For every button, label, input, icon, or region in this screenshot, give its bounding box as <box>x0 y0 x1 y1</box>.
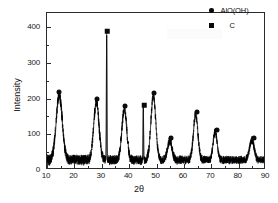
spectrum-path-noise <box>47 33 264 165</box>
x-tick-70 <box>211 164 212 168</box>
x-tick-minor <box>198 166 199 168</box>
x-tick-minor <box>61 166 62 168</box>
x-tick-label-60: 60 <box>179 171 188 180</box>
x-tick-minor <box>170 166 171 168</box>
spectrum-path <box>47 35 264 165</box>
peak-marker-AlOOH-14.5 <box>57 90 62 95</box>
peak-marker-AlOOH-85.5 <box>251 135 256 140</box>
y-tick-minor <box>47 152 49 153</box>
legend-label: C <box>230 21 235 30</box>
x-tick-label-20: 20 <box>69 171 78 180</box>
x-tick-label-30: 30 <box>97 171 106 180</box>
x-tick-10 <box>47 164 48 168</box>
legend-label: AlO(OH) <box>221 6 249 15</box>
y-tick-100 <box>47 134 51 135</box>
peak-marker-AlOOH-72 <box>214 127 219 132</box>
y-tick-label-300: 300 <box>0 57 40 66</box>
x-tick-60 <box>184 164 185 168</box>
x-tick-minor <box>252 166 253 168</box>
x-axis-title: 2θ <box>0 184 278 194</box>
x-tick-20 <box>74 164 75 168</box>
plot-area <box>46 12 265 169</box>
x-tick-label-80: 80 <box>233 171 242 180</box>
y-tick-minor <box>47 116 49 117</box>
x-tick-80 <box>239 164 240 168</box>
y-tick-label-100: 100 <box>0 129 40 138</box>
y-tick-label-200: 200 <box>0 93 40 102</box>
x-tick-minor <box>143 166 144 168</box>
x-tick-minor <box>115 166 116 168</box>
x-tick-40 <box>129 164 130 168</box>
peak-marker-AlOOH-64.8 <box>195 110 200 115</box>
y-tick-label-400: 400 <box>0 22 40 31</box>
x-tick-label-40: 40 <box>124 171 133 180</box>
xrd-chart-figure: Intensity 0100200300400 1020304050607080… <box>0 0 278 203</box>
x-tick-label-10: 10 <box>42 171 51 180</box>
y-tick-minor <box>47 45 49 46</box>
y-tick-300 <box>47 63 51 64</box>
peak-marker-C-45.5 <box>142 103 147 108</box>
peak-marker-AlOOH-28.2 <box>94 97 99 102</box>
legend-square-icon <box>209 23 214 28</box>
x-tick-label-90: 90 <box>261 171 270 180</box>
legend-item-C: C <box>163 18 263 33</box>
y-tick-label-0: 0 <box>0 165 40 174</box>
x-tick-minor <box>88 166 89 168</box>
x-tick-minor <box>225 166 226 168</box>
peak-marker-AlOOH-55.3 <box>169 136 174 141</box>
y-tick-400 <box>47 27 51 28</box>
x-tick-label-70: 70 <box>206 171 215 180</box>
peak-marker-C-32 <box>105 29 110 34</box>
legend-item-AlOOH: AlO(OH) <box>163 3 263 18</box>
peak-marker-AlOOH-49.2 <box>152 90 157 95</box>
x-tick-30 <box>102 164 103 168</box>
x-tick-50 <box>157 164 158 168</box>
legend: AlO(OH)C <box>163 3 263 33</box>
peak-marker-AlOOH-38.5 <box>123 104 128 109</box>
y-tick-200 <box>47 99 51 100</box>
y-tick-minor <box>47 81 49 82</box>
x-tick-label-50: 50 <box>151 171 160 180</box>
legend-circle-icon <box>209 8 214 13</box>
